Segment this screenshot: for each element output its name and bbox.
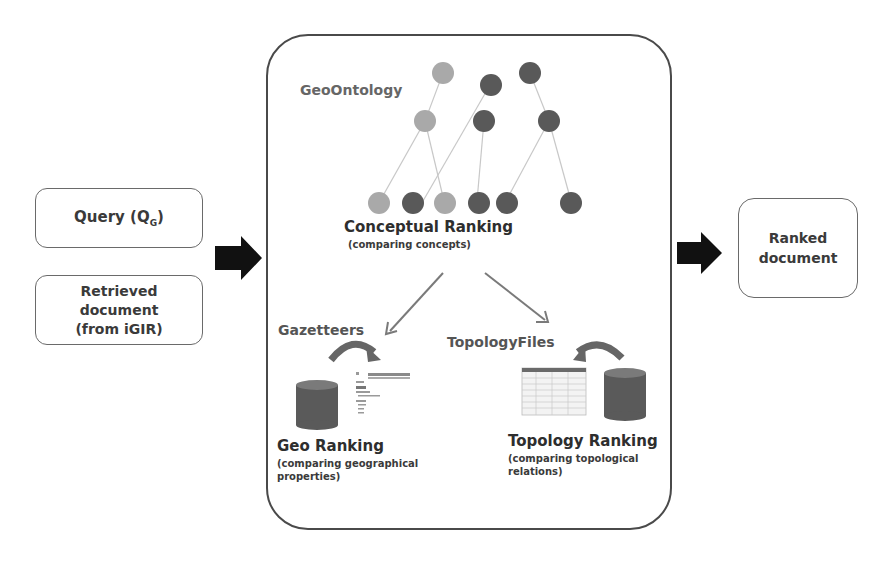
node-dark xyxy=(560,192,582,214)
topology-table-icon xyxy=(522,368,586,415)
node-dark xyxy=(519,62,541,84)
node-dark xyxy=(538,110,560,132)
topology-subtitle-line-2: relations) xyxy=(508,465,638,478)
node-light xyxy=(434,192,456,214)
topology-files-label: TopologyFiles xyxy=(447,334,555,350)
node-light xyxy=(368,192,390,214)
node-dark xyxy=(468,192,490,214)
gazetteer-document-icon xyxy=(356,372,410,414)
topology-ranking-title: Topology Ranking xyxy=(508,432,658,450)
conceptual-ranking-title: Conceptual Ranking xyxy=(344,218,513,236)
output-arrow-icon xyxy=(677,232,722,274)
topology-database-icon xyxy=(604,368,646,421)
arrow-to-topology-icon xyxy=(485,273,545,320)
node-light xyxy=(432,62,454,84)
topology-ranking-subtitle: (comparing topological relations) xyxy=(508,452,638,478)
conceptual-ranking-subtitle: (comparing concepts) xyxy=(348,238,471,251)
gazetteer-database-icon xyxy=(296,380,338,430)
node-dark xyxy=(496,192,518,214)
geo-subtitle-line-2: properties) xyxy=(277,470,418,483)
geo-ranking-subtitle: (comparing geographical properties) xyxy=(277,457,418,483)
ontology-edges xyxy=(380,73,571,201)
geo-subtitle-line-1: (comparing geographical xyxy=(277,457,418,470)
geoontology-label: GeoOntology xyxy=(300,82,402,98)
node-dark xyxy=(473,110,495,132)
node-dark xyxy=(402,192,424,214)
node-light xyxy=(414,110,436,132)
input-arrow-icon xyxy=(215,236,262,280)
geo-ranking-title: Geo Ranking xyxy=(277,437,384,455)
node-dark xyxy=(480,74,502,96)
arrow-to-gazetteers-icon xyxy=(390,273,443,331)
topology-subtitle-line-1: (comparing topological xyxy=(508,452,638,465)
gazetteers-label: Gazetteers xyxy=(278,322,364,338)
diagram-graphics xyxy=(0,0,885,561)
